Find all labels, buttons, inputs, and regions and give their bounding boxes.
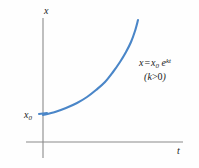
figure-background <box>0 0 199 168</box>
equation-annotation: x=x0 ekt (k>0) <box>124 57 186 83</box>
y-axis-label: x <box>44 6 48 16</box>
equation-text: x=x0 ekt <box>124 57 186 71</box>
condition-close-paren: ) <box>163 71 166 82</box>
x0-subscript: 0 <box>28 114 32 122</box>
exponential-growth-figure: x t x0 x=x0 ekt (k>0) <box>0 0 199 168</box>
equation-exp-superscript: kt <box>166 57 171 65</box>
x-axis-label: t <box>177 146 180 156</box>
equation-equals: = <box>143 57 151 68</box>
x0-value-label: x0 <box>24 110 32 122</box>
condition-text: (k>0) <box>124 71 186 84</box>
plot-canvas <box>0 0 199 168</box>
x0-tick-mark <box>39 113 47 114</box>
equation-rhs-subscript: 0 <box>156 62 160 70</box>
